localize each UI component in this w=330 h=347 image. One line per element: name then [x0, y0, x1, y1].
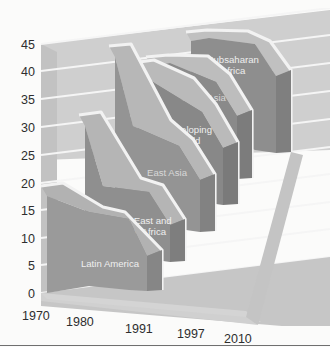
x-tick-1970: 1970 [22, 309, 50, 323]
ribbon-side-cap [276, 70, 291, 153]
y-tick-30: 30 [21, 121, 35, 135]
x-tick-1991: 1991 [125, 322, 153, 336]
y-tick-35: 35 [21, 93, 35, 107]
series-label-east-asia: East Asia [147, 167, 188, 178]
series-label-latin-america: Latin America [81, 258, 140, 269]
x-tick-1997: 1997 [177, 327, 205, 341]
y-tick-15: 15 [21, 204, 35, 218]
y-tick-20: 20 [21, 177, 35, 191]
x-tick-2010: 2010 [224, 332, 252, 346]
ribbon-side-cap [147, 250, 162, 291]
chart-root: Subsaharan Africa South Asia Developing … [0, 0, 330, 347]
y-tick-0: 0 [28, 287, 35, 301]
y-tick-25: 25 [21, 149, 35, 163]
ribbon-side-cap [170, 219, 185, 262]
y-tick-40: 40 [21, 65, 35, 79]
y-tick-10: 10 [21, 232, 35, 246]
ribbon-chart-3d: Subsaharan Africa South Asia Developing … [0, 0, 330, 347]
ribbon-side-cap [223, 142, 238, 205]
x-tick-1980: 1980 [66, 315, 94, 329]
y-tick-45: 45 [21, 38, 35, 52]
y-tick-5: 5 [28, 259, 35, 273]
ribbon-side-cap [200, 174, 215, 232]
